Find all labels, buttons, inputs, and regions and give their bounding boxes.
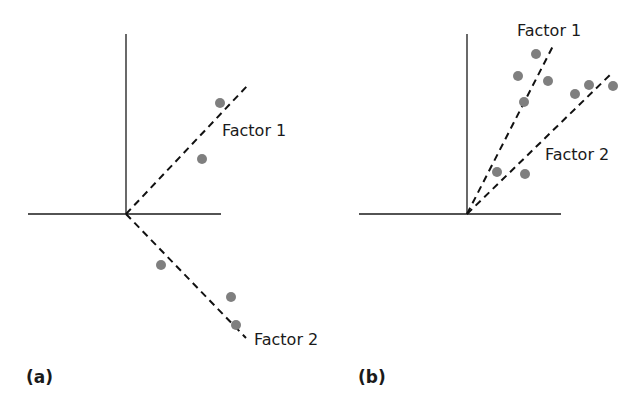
panel-a-factor1-line [126, 85, 248, 214]
panel-b-graphic [359, 34, 618, 214]
data-point [513, 71, 523, 81]
panel-a-factor2-label: Factor 2 [254, 330, 318, 349]
data-point [520, 169, 530, 179]
data-point [543, 76, 553, 86]
panel-b-factor2-line [467, 72, 613, 214]
data-point [197, 154, 207, 164]
data-point [215, 98, 225, 108]
panel-b-factor1-label: Factor 1 [517, 21, 581, 40]
data-point [231, 320, 241, 330]
data-point [570, 89, 580, 99]
data-point [226, 292, 236, 302]
panel-b-factor1-line [467, 46, 553, 214]
data-point [156, 260, 166, 270]
data-point [531, 49, 541, 59]
data-point [584, 80, 594, 90]
panel-b-factor2-label: Factor 2 [545, 145, 609, 164]
data-point [519, 97, 529, 107]
data-point [608, 81, 618, 91]
data-point [492, 167, 502, 177]
panel-b-caption: (b) [358, 367, 386, 387]
panel-a-graphic [28, 34, 248, 338]
panel-a-caption: (a) [26, 367, 53, 387]
factor-diagram [0, 0, 637, 405]
panel-a-factor1-label: Factor 1 [222, 121, 286, 140]
panel-a-factor2-line [126, 214, 246, 338]
